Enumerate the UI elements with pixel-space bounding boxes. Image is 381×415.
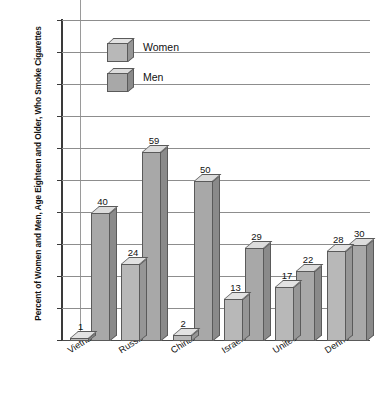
- bar-value-label: 30: [354, 228, 365, 239]
- y-axis-tick-mark: [57, 180, 62, 181]
- bar-value-label: 22: [303, 254, 314, 265]
- bar-value-label: 2: [181, 318, 186, 329]
- y-axis-tick-mark: [57, 276, 62, 277]
- gridline: [62, 148, 370, 149]
- bar-women-russia: 24: [121, 264, 140, 341]
- bar-value-label: 13: [230, 282, 241, 293]
- y-axis-tick-mark: [57, 212, 62, 213]
- legend-swatch-men-icon: [107, 68, 128, 87]
- bar-value-label: 17: [282, 270, 293, 281]
- legend-label-men: Men: [143, 71, 163, 83]
- bar-value-label: 29: [251, 231, 262, 242]
- gridline: [62, 20, 370, 21]
- y-axis-tick-mark: [57, 20, 62, 21]
- bar-women-israel: 13: [224, 299, 243, 341]
- y-axis-tick-mark: [57, 116, 62, 117]
- y-axis-title: Percent of Women and Men, Age Eighteen a…: [33, 24, 44, 324]
- bar-chart: Percent of Women and Men, Age Eighteen a…: [0, 0, 381, 415]
- y-axis-tick-mark: [57, 52, 62, 53]
- bar-value-label: 50: [200, 164, 211, 175]
- bar-value-label: 24: [128, 247, 139, 258]
- legend-label-women: Women: [143, 41, 179, 53]
- y-axis-tick-mark: [57, 148, 62, 149]
- bar-value-label: 40: [97, 196, 108, 207]
- bar-women-denmark: 28: [327, 251, 346, 341]
- y-axis-tick-mark: [57, 84, 62, 85]
- bar-value-label: 28: [333, 234, 344, 245]
- bar-men-china: 50: [194, 181, 213, 341]
- bar-value-label: 1: [78, 321, 83, 332]
- bar-women-united-states: 17: [275, 287, 294, 341]
- bar-women-china: 2: [173, 335, 192, 341]
- bar-value-label: 59: [149, 135, 160, 146]
- y-axis-tick-mark: [57, 308, 62, 309]
- bar-men-vietnam: 40: [91, 213, 110, 341]
- bar-women-vietnam: 1: [70, 338, 89, 341]
- y-axis-tick-mark: [57, 244, 62, 245]
- legend-swatch-women-icon: [107, 38, 128, 57]
- gridline: [62, 116, 370, 117]
